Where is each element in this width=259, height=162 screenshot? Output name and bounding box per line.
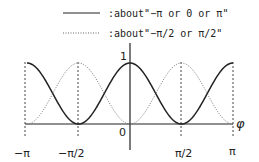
tick-neg-half-pi: −π/2 — [58, 147, 85, 160]
tick-neg-pi: −π — [14, 147, 30, 160]
legend-dotted-label: :about"−π/2 or π/2" — [108, 28, 222, 39]
y-max-label: 1 — [120, 50, 127, 63]
origin-label: 0 — [119, 126, 126, 139]
plot: :about"−π or 0 or π" :about"−π/2 or π/2"… — [0, 0, 259, 162]
tick-pi: π — [229, 145, 236, 158]
x-axis-label: φ — [236, 116, 245, 131]
tick-half-pi: π/2 — [175, 147, 192, 160]
legend-solid-label: :about"−π or 0 or π" — [108, 8, 228, 19]
